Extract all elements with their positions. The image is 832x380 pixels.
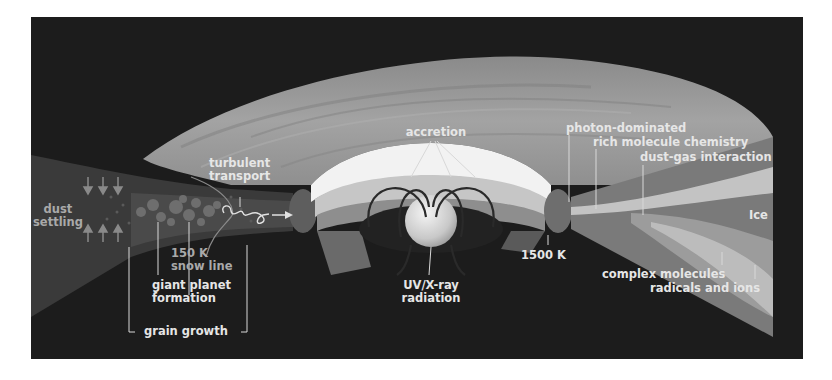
- label-grain-growth: grain growth: [144, 325, 228, 338]
- label-snow-line: 150 K snow line: [171, 247, 232, 273]
- label-uv-xray-radiation: UV/X-ray radiation: [389, 279, 473, 305]
- disk-illustration: [31, 17, 803, 359]
- label-dust-gas-interaction: dust-gas interaction: [640, 151, 772, 164]
- label-rich-molecule-chemistry: rich molecule chemistry: [593, 136, 748, 149]
- label-accretion: accretion: [391, 126, 481, 139]
- label-turbulent-transport: turbulent transport: [209, 157, 270, 183]
- label-complex-molecules: complex molecules: [602, 268, 725, 281]
- label-giant-planet-formation: giant planet formation: [152, 279, 231, 305]
- label-1500k: 1500 K: [521, 249, 566, 262]
- label-radicals-and-ions: radicals and ions: [650, 282, 760, 295]
- label-photon-dominated: photon-dominated: [566, 122, 686, 135]
- diagram-panel: accretion turbulent transport dust settl…: [31, 17, 803, 359]
- label-ice: Ice: [749, 209, 768, 222]
- label-dust-settling: dust settling: [33, 203, 83, 229]
